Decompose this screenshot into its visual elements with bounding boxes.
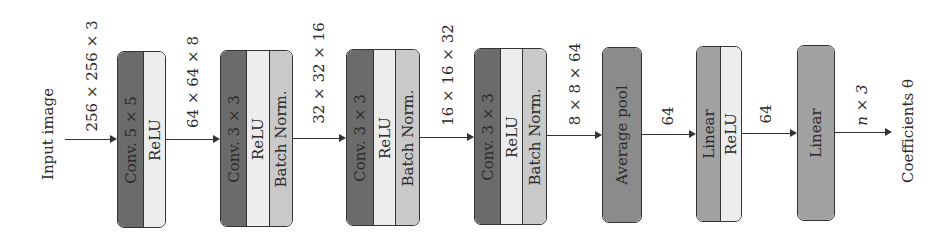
layer-label: Linear [701,109,716,158]
layer-linear: Linear [697,47,720,221]
arrow-2-3 [293,138,344,139]
block-conv3-relu-bn-1: Conv. 3 × 3 ReLU Batch Norm. [220,50,293,227]
block-conv5-relu: Conv. 5 × 5 ReLU [117,51,166,228]
layer-batchnorm: Batch Norm. [269,51,292,226]
arrow-5-6 [642,134,694,135]
block-linear-relu: Linear ReLU [696,46,742,222]
edge-label-7: 64 [759,104,774,123]
block-average-pool: Average pool [602,47,642,223]
layer-conv: Conv. 5 × 5 [118,52,143,227]
edge-label-3: 32 × 32 × 16 [312,22,327,123]
output-label: Coefficients θ [901,79,916,183]
layer-label: Conv. 3 × 3 [226,95,241,183]
layer-relu: ReLU [373,50,395,225]
layer-label: Conv. 3 × 3 [353,94,368,182]
layer-label: Linear [809,108,824,157]
edge-label-8: n × 3 [855,84,870,125]
layer-relu: ReLU [143,52,165,227]
layer-label: Conv. 3 × 3 [480,93,495,181]
edge-label-6: 64 [661,106,676,125]
layer-linear: Linear [798,46,834,220]
arrow-4-5 [547,135,600,136]
layer-label: ReLU [504,116,519,158]
arrow-input [65,139,115,140]
layer-label: ReLU [724,113,739,155]
layer-conv: Conv. 3 × 3 [347,50,373,225]
input-label: Input image [41,88,56,180]
edge-label-2: 64 × 64 × 8 [186,36,201,128]
layer-batchnorm: Batch Norm. [522,49,546,224]
layer-label: Batch Norm. [400,89,415,186]
layer-label: Conv. 5 × 5 [123,96,138,184]
block-conv3-relu-bn-2: Conv. 3 × 3 ReLU Batch Norm. [346,49,420,226]
layer-conv: Conv. 3 × 3 [475,49,500,224]
edge-label-1: 256 × 256 × 3 [85,20,100,131]
layer-label: Batch Norm. [527,88,542,185]
block-linear: Linear [797,45,835,221]
layer-relu: ReLU [500,49,522,224]
arrow-3-4 [420,137,472,138]
layer-relu: ReLU [720,47,741,221]
layer-label: Batch Norm. [274,90,289,187]
layer-label: ReLU [377,117,392,159]
arrow-output [835,132,890,133]
block-conv3-relu-bn-3: Conv. 3 × 3 ReLU Batch Norm. [474,48,547,225]
layer-label: Average pool [615,85,630,184]
layer-label: ReLU [251,118,266,160]
layer-relu: ReLU [246,51,269,226]
edge-label-5: 8 × 8 × 64 [568,43,583,125]
arrow-6-7 [742,133,795,134]
layer-conv: Conv. 3 × 3 [221,51,246,226]
layer-label: ReLU [147,119,162,161]
layer-batchnorm: Batch Norm. [395,50,419,225]
layer-avgpool: Average pool [603,48,641,222]
edge-label-4: 16 × 16 × 32 [441,24,456,125]
arrow-1-2 [166,139,218,140]
